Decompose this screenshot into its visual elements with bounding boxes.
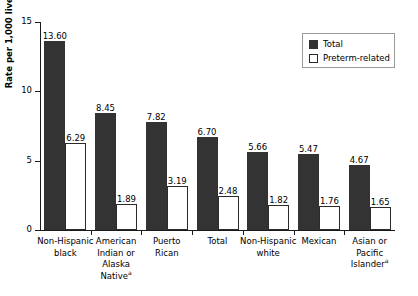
y-axis-title: Rate per 1,000 live births [2, 0, 16, 92]
bar-total-3: 6.70 [197, 137, 218, 230]
x-tick-4 [243, 230, 244, 235]
x-tick-3 [192, 230, 193, 235]
bar-value-label: 1.65 [371, 197, 390, 207]
bar-value-label: 1.89 [117, 194, 136, 204]
legend-item-preterm-related: Preterm-related [309, 52, 390, 65]
x-tick-5 [294, 230, 295, 235]
legend-item-total: Total [309, 38, 343, 51]
y-tick-0: 0 [35, 230, 40, 231]
bar-total-0: 13.60 [44, 41, 65, 230]
legend-label-total: Total [323, 39, 343, 50]
bar-value-label: 5.66 [248, 142, 267, 152]
bar-preterm-0: 6.29 [65, 143, 86, 230]
bar-total-1: 8.45 [95, 113, 116, 230]
bar-value-label: 1.82 [269, 195, 288, 205]
y-tick-label-0: 0 [27, 224, 32, 235]
footnote-marker: a [128, 269, 132, 276]
legend-label-preterm-related: Preterm-related [323, 53, 390, 64]
bar-value-label: 3.19 [168, 176, 187, 186]
x-category-label-6: Asian orPacificIslandera [337, 236, 402, 271]
bar-preterm-5: 1.76 [319, 206, 340, 230]
y-tick-5: 5 [35, 161, 40, 162]
bar-total-2: 7.82 [146, 122, 167, 230]
bar-preterm-3: 2.48 [218, 196, 239, 230]
x-tick-1 [91, 230, 92, 235]
y-tick-15: 15 [35, 22, 40, 23]
y-tick-label-5: 5 [27, 155, 32, 166]
bar-value-label: 5.47 [299, 144, 318, 154]
x-tick-2 [141, 230, 142, 235]
bar-value-label: 4.67 [350, 155, 369, 165]
bar-value-label: 8.45 [96, 103, 115, 113]
chart-legend: Total Preterm-related [302, 33, 395, 68]
bar-preterm-2: 3.19 [167, 186, 188, 230]
bar-preterm-6: 1.65 [370, 207, 391, 230]
x-tick-6 [344, 230, 345, 235]
y-tick-label-10: 10 [21, 85, 32, 96]
chart-figure: Rate per 1,000 live births 051015 13.606… [0, 0, 418, 296]
bar-value-label: 7.82 [147, 112, 166, 122]
bar-value-label: 13.60 [43, 31, 67, 41]
y-tick-10: 10 [35, 91, 40, 92]
bar-value-label: 2.48 [219, 186, 238, 196]
bar-total-4: 5.66 [247, 152, 268, 230]
bar-preterm-1: 1.89 [116, 204, 137, 230]
legend-swatch-total-icon [309, 40, 318, 49]
bar-value-label: 1.76 [320, 196, 339, 206]
y-tick-label-15: 15 [21, 16, 32, 27]
bar-total-5: 5.47 [298, 154, 319, 230]
x-axis-line [40, 230, 395, 231]
footnote-marker: a [385, 257, 389, 264]
bar-value-label: 6.29 [66, 133, 85, 143]
bar-preterm-4: 1.82 [268, 205, 289, 230]
bar-total-6: 4.67 [349, 165, 370, 230]
bar-value-label: 6.70 [198, 127, 217, 137]
y-axis-line [40, 22, 41, 231]
legend-swatch-preterm-icon [309, 54, 318, 63]
